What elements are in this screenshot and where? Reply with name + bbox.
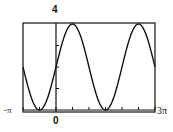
- x-min-label: -π: [4, 106, 12, 115]
- chart-plot: [0, 0, 173, 132]
- y-max-label: 4: [52, 5, 58, 15]
- x-max-label: 3π: [157, 106, 167, 116]
- function-curve: [23, 24, 155, 110]
- origin-label: 0: [53, 116, 59, 126]
